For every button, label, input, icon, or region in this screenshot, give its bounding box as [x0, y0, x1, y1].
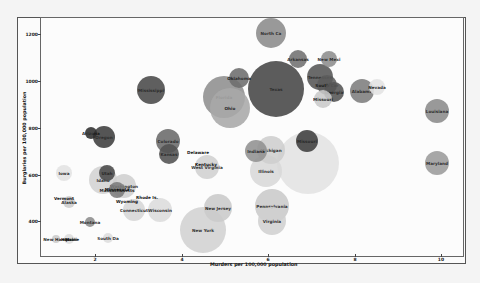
data-point-bubble: New Jersey: [204, 194, 232, 222]
bubble-label: New Jersey: [205, 206, 231, 211]
data-point-bubble: New Mexi: [321, 51, 337, 67]
y-tick-400: 400: [18, 219, 38, 224]
data-point-bubble: Alaska: [63, 196, 75, 208]
data-point-bubble: Ohio: [210, 88, 250, 128]
x-tick-4: 4: [180, 257, 183, 262]
data-point-bubble: Iowa: [56, 165, 72, 181]
data-point-bubble: Wisconsin: [148, 198, 172, 222]
x-tick-10: 10: [438, 257, 444, 262]
bubble-label: Missouri: [313, 97, 333, 102]
bubble-label: Colorado: [157, 139, 178, 144]
data-point-bubble: West Virginia: [195, 155, 219, 179]
bubble-label: Nevada: [368, 85, 386, 90]
y-tickmark: [38, 34, 41, 35]
data-point-bubble: South Da: [103, 233, 113, 243]
data-point-bubble: Connecticut: [123, 199, 145, 221]
data-point-bubble: North Ca: [256, 18, 286, 48]
y-tickmark: [38, 128, 41, 129]
bubble-label: Ohio: [225, 106, 236, 111]
data-point-bubble: Maryland: [425, 151, 449, 175]
y-axis-label: Burglaries per 100,000 population: [22, 92, 27, 185]
data-point-bubble: Kansas: [159, 144, 179, 164]
bubble-label: New York: [192, 228, 214, 233]
bubble-label: Virginia: [263, 219, 281, 224]
bubble-label: Louisiana: [426, 109, 449, 114]
x-axis-label: Murders per 100,000 population: [210, 262, 297, 267]
bubble-label: West Virginia: [191, 165, 223, 170]
x-tick-6: 6: [266, 257, 269, 262]
data-point-bubble: Virginia: [258, 207, 286, 235]
data-point-bubble: Texas: [248, 61, 304, 117]
x-tickmark: [182, 254, 183, 257]
bubble-label: Maryland: [426, 161, 448, 166]
y-tickmark: [38, 175, 41, 176]
data-point-bubble: Hawaii: [64, 234, 74, 244]
bubble-label: Alaska: [61, 200, 77, 205]
y-tick-1200: 1200: [18, 32, 38, 37]
data-point-bubble: Mississippi: [137, 76, 165, 104]
x-tick-8: 8: [353, 257, 356, 262]
data-point-bubble: Arkansas: [289, 50, 307, 68]
data-point-bubble: Utah: [99, 165, 115, 181]
data-point-bubble: Missouri: [314, 90, 332, 108]
y-tickmark: [38, 81, 41, 82]
bubble-label: Mississippi: [138, 88, 164, 93]
bubble-label: Illinois: [258, 169, 274, 174]
bubble-label: Indiana: [247, 149, 265, 154]
data-point-bubble: Indiana: [245, 140, 267, 162]
bubble-label: Oklahoma: [227, 76, 251, 81]
data-point-bubble: Massachusetts: [109, 182, 125, 198]
data-point-bubble: Nevada: [369, 79, 385, 95]
x-tickmark: [268, 254, 269, 257]
x-tickmark: [355, 254, 356, 257]
data-point-bubble: Missouri: [296, 130, 318, 152]
x-tick-2: 2: [93, 257, 96, 262]
y-tickmark: [38, 221, 41, 222]
data-point-bubble: Montana: [85, 217, 95, 227]
bubble-label: North Ca: [261, 31, 282, 36]
bubble-label: Texas: [269, 87, 282, 92]
y-tick-1000: 1000: [18, 79, 38, 84]
data-point-bubble: Arizona: [85, 127, 97, 139]
y-tick-600: 600: [18, 173, 38, 178]
bubble-label: Connecticut: [120, 208, 148, 213]
x-tickmark: [441, 254, 442, 257]
bubble-label: Arkansas: [287, 57, 309, 62]
data-point-bubble: New Hamp: [52, 235, 60, 243]
y-tick-800: 800: [18, 126, 38, 131]
data-point-bubble: Oklahoma: [229, 68, 249, 88]
bubble-label: Kansas: [161, 152, 178, 157]
x-tickmark: [95, 254, 96, 257]
data-point-bubble: Louisiana: [425, 99, 449, 123]
bubble-label: Utah: [101, 171, 112, 176]
bubble-label: Iowa: [58, 171, 69, 176]
bubble-label: Oregon: [95, 135, 112, 140]
bubble-label: Missouri: [297, 139, 317, 144]
bubble-label: Wisconsin: [148, 208, 172, 213]
